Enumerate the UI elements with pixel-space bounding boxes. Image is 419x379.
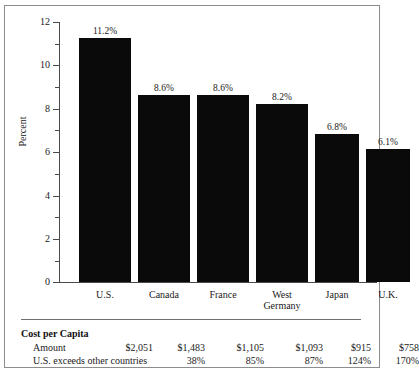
table-cell-amount-france: $1,105 <box>216 342 264 353</box>
y-tick-label-6: 6 <box>20 147 50 157</box>
x-label-west-germany-line1: West <box>272 289 292 300</box>
y-tick-minor-11 <box>55 44 60 45</box>
table-row-label-exceeds: U.S. exceeds other countries <box>33 355 147 366</box>
table-cell-amount-uk: $758 <box>371 342 419 353</box>
y-tick-major-6 <box>53 152 60 153</box>
bar-canada[interactable] <box>138 95 190 282</box>
y-tick-major-12 <box>53 22 60 23</box>
table-title: Cost per Capita <box>21 328 89 339</box>
y-tick-label-10: 10 <box>20 60 50 70</box>
x-axis-line <box>59 282 377 283</box>
y-tick-label-0: 0 <box>20 277 50 287</box>
x-label-us: U.S. <box>79 289 131 300</box>
y-tick-minor-3 <box>55 217 60 218</box>
bar-value-france: 8.6% <box>197 83 249 93</box>
y-tick-minor-1 <box>55 261 60 262</box>
table-row-label-amount: Amount <box>33 342 66 353</box>
x-label-west-germany: West Germany <box>254 289 310 311</box>
table-cell-exceeds-uk: 170% <box>371 355 419 366</box>
y-tick-major-2 <box>53 239 60 240</box>
bar-west-germany[interactable] <box>256 104 308 282</box>
y-tick-label-12: 12 <box>20 17 50 27</box>
x-label-west-germany-line2: Germany <box>263 300 300 311</box>
y-tick-label-2: 2 <box>20 234 50 244</box>
y-tick-label-4: 4 <box>20 191 50 201</box>
x-label-canada: Canada <box>136 289 192 300</box>
x-label-japan: Japan <box>311 289 363 300</box>
y-tick-major-4 <box>53 196 60 197</box>
y-tick-minor-7 <box>55 130 60 131</box>
figure-panel: Percent 12 10 8 6 4 2 0 11.2% 8.6% 8.6% <box>4 5 380 368</box>
bar-value-canada: 8.6% <box>138 83 190 93</box>
table-cell-amount-west-germany: $1,093 <box>275 342 323 353</box>
bar-uk[interactable] <box>366 149 410 282</box>
table-cell-amount-canada: $1,483 <box>157 342 205 353</box>
x-label-uk: U.K. <box>362 289 414 300</box>
bar-france[interactable] <box>197 95 249 282</box>
y-tick-label-8: 8 <box>20 104 50 114</box>
y-tick-major-8 <box>53 109 60 110</box>
y-tick-minor-5 <box>55 174 60 175</box>
y-tick-major-0 <box>53 282 60 283</box>
table-cell-amount-japan: $915 <box>323 342 371 353</box>
bar-value-us: 11.2% <box>79 26 131 36</box>
x-label-france: France <box>195 289 251 300</box>
bar-value-japan: 6.8% <box>313 122 361 132</box>
table-cell-exceeds-france: 85% <box>216 355 264 366</box>
table-cell-amount-us: $2,051 <box>105 342 153 353</box>
bar-value-uk: 6.1% <box>364 137 412 147</box>
bar-japan[interactable] <box>315 134 359 282</box>
bar-value-west-germany: 8.2% <box>256 92 308 102</box>
table-cell-exceeds-canada: 38% <box>157 355 205 366</box>
table-cell-exceeds-west-germany: 87% <box>275 355 323 366</box>
bar-chart: Percent 12 10 8 6 4 2 0 11.2% 8.6% 8.6% <box>5 6 381 369</box>
bar-us[interactable] <box>79 38 131 282</box>
table-top-rule <box>21 319 361 320</box>
y-tick-major-10 <box>53 65 60 66</box>
y-tick-minor-9 <box>55 87 60 88</box>
table-cell-exceeds-japan: 124% <box>323 355 371 366</box>
